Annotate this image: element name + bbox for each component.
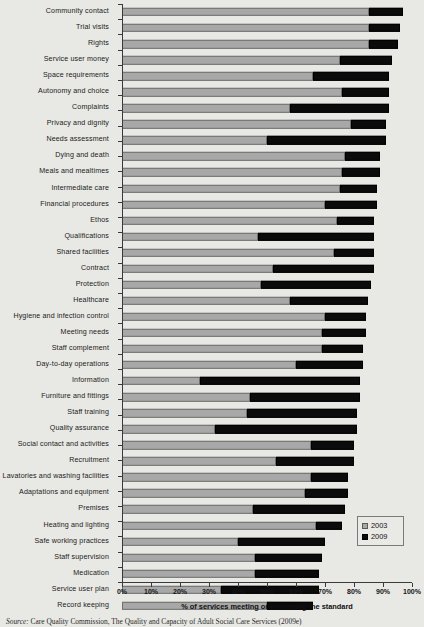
- bar-track: [122, 297, 412, 305]
- bar-row: Protection: [0, 277, 412, 293]
- category-label: Rights: [88, 41, 109, 48]
- x-axis-tick-label: 10%: [144, 588, 158, 595]
- bar-row: Dying and death: [0, 148, 412, 164]
- x-axis-tick: [238, 583, 239, 587]
- category-label: Service user money: [44, 57, 109, 64]
- bar-row: Staff supervision: [0, 550, 412, 566]
- bar-row: Needs assessment: [0, 132, 412, 148]
- category-label: Heating and lighting: [43, 522, 109, 529]
- bar-track: [122, 265, 412, 273]
- category-label: Qualifications: [64, 233, 109, 240]
- category-label: Medication: [73, 570, 109, 577]
- bar-row: Meeting needs: [0, 325, 412, 341]
- bar-segment-2003: [122, 537, 238, 545]
- y-axis-tick: [118, 232, 122, 233]
- category-label: Social contact and activities: [18, 442, 109, 449]
- bar-segment-2009: [311, 473, 349, 481]
- legend-swatch-2009: [362, 534, 368, 540]
- bar-segment-2003: [122, 377, 200, 385]
- bar-track: [122, 8, 412, 16]
- bar-track: [122, 377, 412, 385]
- bar-track: [122, 184, 412, 192]
- bar-track: [122, 393, 412, 401]
- bar-segment-2009: [322, 329, 366, 337]
- bar-segment-2003: [122, 297, 290, 305]
- bar-track: [122, 329, 412, 337]
- bar-segment-2003: [122, 489, 305, 497]
- y-axis-tick: [118, 460, 122, 461]
- bar-row: Space requirements: [0, 68, 412, 84]
- y-axis-tick: [118, 19, 122, 20]
- bar-segment-2003: [122, 313, 325, 321]
- bar-segment-2009: [255, 569, 319, 577]
- bar-segment-2009: [325, 200, 377, 208]
- bar-track: [122, 168, 412, 176]
- source-prefix: Source:: [6, 617, 29, 626]
- bar-segment-2003: [122, 569, 255, 577]
- bar-track: [122, 40, 412, 48]
- bar-segment-2009: [342, 168, 380, 176]
- y-axis-tick: [118, 567, 122, 568]
- bar-segment-2003: [122, 152, 345, 160]
- bar-track: [122, 216, 412, 224]
- y-axis-tick: [118, 34, 122, 35]
- category-label: Meals and mealtimes: [39, 169, 109, 176]
- bar-track: [122, 489, 412, 497]
- bar-row: Intermediate care: [0, 181, 412, 197]
- x-axis-tick-label: 70%: [318, 588, 332, 595]
- category-label: Service user plan: [52, 586, 109, 593]
- bar-segment-2009: [261, 281, 371, 289]
- x-axis-tick: [209, 583, 210, 587]
- bar-row: Safe working practices: [0, 534, 412, 550]
- legend-item-2009: 2009: [362, 531, 400, 542]
- bar-track: [122, 409, 412, 417]
- bar-segment-2009: [267, 136, 386, 144]
- bar-segment-2009: [325, 313, 366, 321]
- category-label: Meeting needs: [61, 329, 109, 336]
- bar-track: [122, 345, 412, 353]
- bar-row: Privacy and dignity: [0, 116, 412, 132]
- x-axis-tick: [122, 583, 123, 587]
- source-caption: Source: Care Quality Commission, The Qua…: [6, 617, 302, 626]
- bar-row: Rights: [0, 36, 412, 52]
- bar-segment-2003: [122, 409, 247, 417]
- bar-segment-2003: [122, 249, 334, 257]
- bar-row: Social contact and activities: [0, 437, 412, 453]
- category-label: Complaints: [72, 105, 109, 112]
- bar-segment-2003: [122, 329, 322, 337]
- bar-row: Autonomy and choice: [0, 84, 412, 100]
- bar-rows: Community contactTrial visitsRightsServi…: [0, 4, 412, 582]
- category-label: Dying and death: [55, 153, 109, 160]
- bar-row: Staff training: [0, 405, 412, 421]
- bar-segment-2009: [313, 72, 388, 80]
- bar-segment-2003: [122, 56, 340, 64]
- bar-track: [122, 88, 412, 96]
- y-axis-tick: [118, 506, 122, 507]
- bar-track: [122, 152, 412, 160]
- bar-segment-2003: [122, 24, 369, 32]
- bar-segment-2009: [334, 249, 375, 257]
- bar-segment-2009: [273, 265, 375, 273]
- y-axis-tick: [118, 156, 122, 157]
- y-axis-tick: [118, 171, 122, 172]
- x-axis-tick-label: 30%: [202, 588, 216, 595]
- category-label: Furniture and fittings: [41, 394, 109, 401]
- y-axis-tick: [118, 50, 122, 51]
- category-label: Recruitment: [69, 458, 109, 465]
- x-axis-tick-label: 100%: [403, 588, 421, 595]
- bar-segment-2003: [122, 136, 267, 144]
- x-axis-tick-label: 50%: [260, 588, 274, 595]
- bar-segment-2003: [122, 361, 296, 369]
- y-axis-tick: [118, 339, 122, 340]
- bar-track: [122, 569, 412, 577]
- bar-segment-2003: [122, 441, 311, 449]
- bar-row: Medication: [0, 566, 412, 582]
- bar-segment-2003: [122, 521, 316, 529]
- x-axis-title: % of services meeting or exceeding the s…: [122, 602, 412, 611]
- category-label: Information: [72, 378, 109, 385]
- bar-track: [122, 505, 412, 513]
- bar-segment-2003: [122, 184, 340, 192]
- category-label: Autonomy and choice: [38, 89, 109, 96]
- chart-page: Community contactTrial visitsRightsServi…: [0, 0, 424, 627]
- bar-segment-2009: [340, 184, 378, 192]
